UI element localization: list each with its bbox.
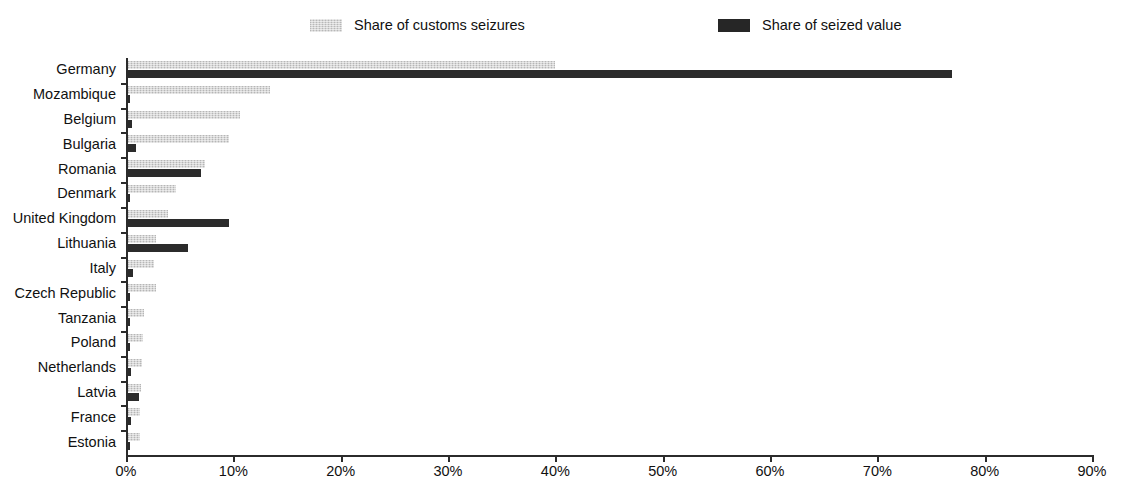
bar-customs-seizures [128, 433, 140, 441]
bar-customs-seizures [128, 309, 144, 317]
y-axis-label-denmark: Denmark [0, 185, 116, 201]
horizontal-bar-chart: Share of customs seizures Share of seize… [0, 0, 1122, 483]
bar-seized-value [128, 244, 188, 252]
y-axis-label-estonia: Estonia [0, 434, 116, 450]
legend-swatch-dark-icon [718, 19, 750, 32]
bar-row [128, 182, 1094, 207]
bar-row [128, 58, 1094, 83]
bar-seized-value [128, 95, 130, 103]
x-axis-tick [126, 455, 128, 462]
x-axis-label-80pct: 80% [950, 462, 1020, 480]
x-axis-label-40pct: 40% [520, 462, 590, 480]
bar-seized-value [128, 70, 952, 78]
bar-row [128, 157, 1094, 182]
chart-legend: Share of customs seizures Share of seize… [0, 8, 1122, 42]
y-axis-label-czech-republic: Czech Republic [0, 285, 116, 301]
y-axis-label-lithuania: Lithuania [0, 235, 116, 251]
bar-row [128, 430, 1094, 455]
bar-seized-value [128, 293, 130, 301]
bar-seized-value [128, 417, 131, 425]
y-axis-label-bulgaria: Bulgaria [0, 136, 116, 152]
y-axis-label-belgium: Belgium [0, 111, 116, 127]
y-axis-label-mozambique: Mozambique [0, 86, 116, 102]
y-axis-tick [121, 331, 128, 333]
bar-seized-value [128, 442, 130, 450]
bar-row [128, 83, 1094, 108]
y-axis-label-france: France [0, 409, 116, 425]
x-axis-label-50pct: 50% [628, 462, 698, 480]
bar-customs-seizures [128, 260, 154, 268]
y-axis-tick [121, 405, 128, 407]
legend-label-share-of-customs-seizures: Share of customs seizures [354, 17, 525, 33]
bar-seized-value [128, 368, 131, 376]
bar-row [128, 281, 1094, 306]
x-axis-label-20pct: 20% [306, 462, 376, 480]
bar-row [128, 356, 1094, 381]
bar-row [128, 381, 1094, 406]
legend-label-share-of-seized-value: Share of seized value [762, 17, 901, 33]
bar-customs-seizures [128, 334, 143, 342]
x-axis-tick [341, 455, 343, 462]
x-axis-labels: 0%10%20%30%40%50%60%70%80%90% [0, 462, 1122, 483]
bar-customs-seizures [128, 359, 142, 367]
x-axis-label-30pct: 30% [413, 462, 483, 480]
legend-item-share-of-seized-value: Share of seized value [718, 14, 901, 36]
y-axis-label-italy: Italy [0, 260, 116, 276]
legend-item-share-of-customs-seizures: Share of customs seizures [310, 14, 525, 36]
bar-row [128, 108, 1094, 133]
y-axis-tick [121, 281, 128, 283]
bar-seized-value [128, 120, 132, 128]
bar-customs-seizures [128, 86, 270, 94]
bar-row [128, 306, 1094, 331]
bar-seized-value [128, 269, 133, 277]
x-axis-tick [1092, 455, 1094, 462]
bar-row [128, 132, 1094, 157]
bar-customs-seizures [128, 160, 205, 168]
y-axis-tick [121, 257, 128, 259]
bar-row [128, 405, 1094, 430]
y-axis-tick [121, 356, 128, 358]
bar-seized-value [128, 144, 136, 152]
x-axis-label-70pct: 70% [842, 462, 912, 480]
y-axis-label-tanzania: Tanzania [0, 310, 116, 326]
y-axis-label-germany: Germany [0, 61, 116, 77]
bar-seized-value [128, 169, 201, 177]
x-axis-tick [233, 455, 235, 462]
y-axis-tick [121, 157, 128, 159]
y-axis-label-netherlands: Netherlands [0, 359, 116, 375]
bar-row [128, 257, 1094, 282]
y-axis-tick [121, 232, 128, 234]
y-axis-tick [121, 132, 128, 134]
x-axis-label-60pct: 60% [735, 462, 805, 480]
bar-customs-seizures [128, 235, 156, 243]
bar-customs-seizures [128, 408, 140, 416]
bar-row [128, 232, 1094, 257]
bar-seized-value [128, 194, 130, 202]
y-axis-tick [121, 430, 128, 432]
y-axis-label-poland: Poland [0, 334, 116, 350]
bar-seized-value [128, 343, 130, 351]
bar-seized-value [128, 219, 229, 227]
y-axis-label-united-kingdom: United Kingdom [0, 210, 116, 226]
bar-customs-seizures [128, 185, 176, 193]
x-axis-tick [448, 455, 450, 462]
legend-swatch-light-icon [310, 19, 342, 32]
y-axis-tick [121, 381, 128, 383]
bar-row [128, 331, 1094, 356]
x-axis-label-10pct: 10% [198, 462, 268, 480]
plot-area [126, 58, 1094, 457]
bar-customs-seizures [128, 384, 141, 392]
bar-rows [128, 58, 1094, 455]
bar-customs-seizures [128, 135, 229, 143]
y-axis-labels: GermanyMozambiqueBelgiumBulgariaRomaniaD… [0, 58, 120, 455]
bar-customs-seizures [128, 210, 168, 218]
bar-customs-seizures [128, 111, 240, 119]
y-axis-label-latvia: Latvia [0, 384, 116, 400]
x-axis-tick [663, 455, 665, 462]
bar-customs-seizures [128, 61, 555, 69]
y-axis-tick [121, 108, 128, 110]
x-axis-label-0pct: 0% [91, 462, 161, 480]
x-axis-tick [985, 455, 987, 462]
y-axis-label-romania: Romania [0, 161, 116, 177]
x-axis-tick [877, 455, 879, 462]
